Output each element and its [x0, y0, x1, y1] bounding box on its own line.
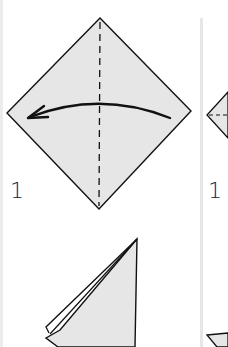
folded-triangle	[46, 239, 137, 347]
step-number: 1	[10, 180, 24, 202]
step-number: 1	[208, 180, 222, 202]
partial-shape-lower-right	[207, 333, 228, 347]
origami-diagram: 1 1	[0, 0, 228, 347]
diagram-drawing	[0, 0, 228, 347]
partial-diamond-right	[207, 92, 228, 138]
